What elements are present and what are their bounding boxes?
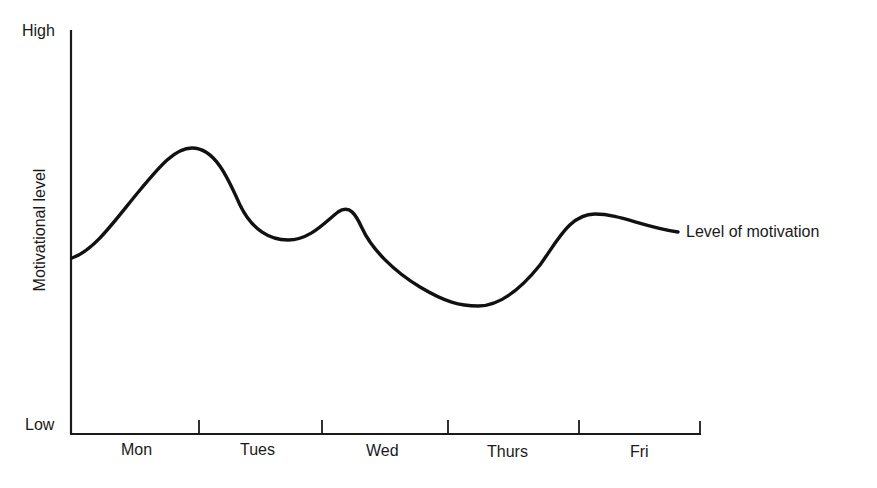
- x-tick-label-fri: Fri: [630, 443, 649, 461]
- x-tick-label-thurs: Thurs: [487, 443, 528, 461]
- x-tick-label-mon: Mon: [121, 441, 152, 459]
- y-high-label: High: [22, 22, 55, 40]
- y-low-label: Low: [25, 416, 54, 434]
- series-label: Level of motivation: [686, 223, 819, 241]
- x-tick-label-tues: Tues: [240, 441, 275, 459]
- line-chart: [0, 0, 877, 488]
- x-tick-label-wed: Wed: [366, 442, 399, 460]
- motivation-line: [72, 148, 678, 306]
- y-axis-title: Motivational level: [31, 160, 49, 300]
- x-axis-ticks: [199, 420, 700, 434]
